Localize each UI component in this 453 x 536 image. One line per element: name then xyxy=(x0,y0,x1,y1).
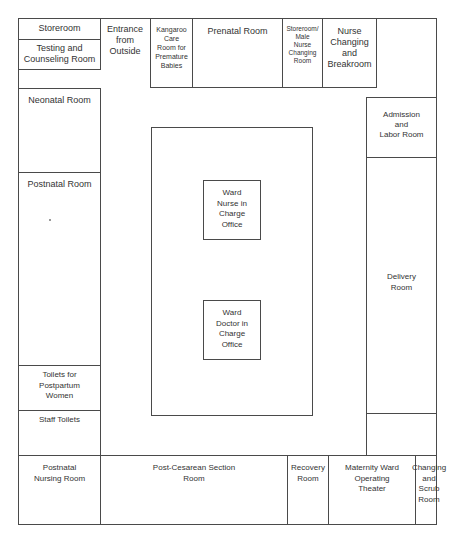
room-ward-nurse-office: Ward Nurse in Charge Office xyxy=(203,180,261,240)
room-unlabeled-right xyxy=(366,413,437,456)
room-post-cesarean: Post-Cesarean Section Room xyxy=(100,455,288,525)
room-label: Post-Cesarean Section Room xyxy=(101,463,287,484)
room-operating-theater: Maternity Ward Operating Theater xyxy=(328,455,416,525)
room-label: Maternity Ward Operating Theater xyxy=(329,463,415,495)
room-toilets-postpartum: Toilets for Postpartum Women xyxy=(18,365,101,411)
room-postnatal-nursing: Postnatal Nursing Room xyxy=(18,455,101,525)
room-label: Staff Toilets xyxy=(19,415,100,425)
room-label: Delivery Room xyxy=(367,272,436,293)
room-label: Nurse Changing and Breakroom xyxy=(323,26,376,70)
room-label: Postnatal Room xyxy=(19,179,100,190)
stray-mark xyxy=(49,219,51,221)
room-label: Changing and Scrub Room xyxy=(404,463,453,505)
room-admission-labor: Admission and Labor Room xyxy=(366,97,437,158)
room-label: Prenatal Room xyxy=(193,26,282,37)
room-label: Ward Nurse in Charge Office xyxy=(204,188,260,230)
room-label: Toilets for Postpartum Women xyxy=(19,370,100,402)
room-delivery: Delivery Room xyxy=(366,157,437,414)
room-storeroom-male-nurse: Storeroom/ Male Nurse Changing Room xyxy=(282,18,323,88)
room-changing-scrub: Changing and Scrub Room xyxy=(415,455,437,525)
room-staff-toilets: Staff Toilets xyxy=(18,410,101,456)
room-label: Ward Doctor in Charge Office xyxy=(204,308,260,350)
room-label: Testing and Counseling Room xyxy=(19,43,100,65)
room-label: Recovery Room xyxy=(288,463,328,484)
room-label: Admission and Labor Room xyxy=(367,110,436,140)
room-recovery: Recovery Room xyxy=(287,455,329,525)
room-label: Neonatal Room xyxy=(19,95,100,106)
room-prenatal: Prenatal Room xyxy=(192,18,283,88)
room-postnatal: Postnatal Room xyxy=(18,172,101,366)
room-label: Postnatal Nursing Room xyxy=(19,463,100,484)
room-testing-counseling: Testing and Counseling Room xyxy=(18,39,101,70)
room-label: Storeroom/ Male Nurse Changing Room xyxy=(283,25,322,65)
room-ward-doctor-office: Ward Doctor in Charge Office xyxy=(203,300,261,360)
room-kangaroo-care: Kangaroo Care Room for Premature Babies xyxy=(150,18,193,88)
central-block xyxy=(151,127,313,416)
room-nurse-changing-breakroom: Nurse Changing and Breakroom xyxy=(322,18,377,88)
room-label: Kangaroo Care Room for Premature Babies xyxy=(151,25,192,70)
entrance-label: Entrance from Outside xyxy=(100,24,150,57)
room-neonatal: Neonatal Room xyxy=(18,88,101,173)
room-label: Storeroom xyxy=(19,23,100,34)
room-storeroom: Storeroom xyxy=(18,18,101,40)
